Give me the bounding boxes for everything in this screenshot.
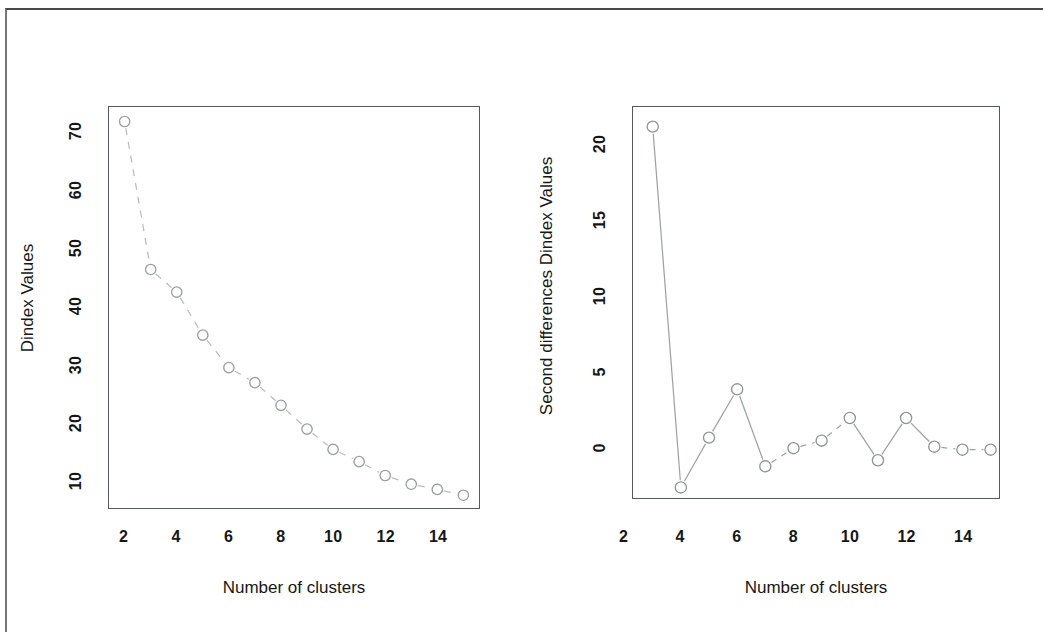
series-segment <box>827 422 844 436</box>
data-point-marker <box>224 362 234 372</box>
y-axis-title-dindex: Dindex Values <box>18 118 38 478</box>
y-tick-label: 10 <box>591 274 609 318</box>
data-point-marker <box>760 461 771 472</box>
figure-page: Dindex Values Number of clusters 1020304… <box>0 0 1045 632</box>
series-segment <box>941 447 955 448</box>
y-axis-title-second-differences: Second differences Dindex Values <box>537 106 557 466</box>
series-segment <box>126 128 150 263</box>
x-axis-title-second-differences: Number of clusters <box>632 578 1000 598</box>
y-tick-label: 40 <box>67 284 85 328</box>
panel-dindex: Dindex Values Number of clusters 1020304… <box>0 0 523 632</box>
series-segment <box>365 465 379 473</box>
x-tick-label: 6 <box>209 528 249 546</box>
data-point-marker <box>929 441 940 452</box>
x-tick-label: 4 <box>660 528 700 546</box>
data-point-marker <box>703 432 714 443</box>
series-segment <box>444 491 457 494</box>
data-point-marker <box>432 484 442 494</box>
x-tick-label: 8 <box>261 528 301 546</box>
data-point-marker <box>872 455 883 466</box>
y-tick-label: 60 <box>67 168 85 212</box>
series-segment <box>854 424 874 454</box>
series-segment <box>800 442 814 446</box>
series-segment <box>207 340 225 362</box>
x-tick-label: 8 <box>773 528 813 546</box>
series-segment <box>911 423 929 441</box>
data-point-marker <box>198 330 208 340</box>
x-tick-label: 14 <box>418 528 458 546</box>
series-segment <box>339 452 353 458</box>
x-tick-label: 2 <box>604 528 644 546</box>
y-tick-label: 10 <box>67 459 85 503</box>
x-tick-label: 12 <box>366 528 406 546</box>
y-tick-label: 30 <box>67 343 85 387</box>
y-tick-label: 20 <box>67 401 85 445</box>
data-point-marker <box>328 444 338 454</box>
series-segment <box>260 387 276 401</box>
series-segment <box>882 424 902 454</box>
series-segment <box>684 444 705 481</box>
x-tick-label: 2 <box>104 528 144 546</box>
series-segment <box>392 478 405 482</box>
data-point-marker <box>354 456 364 466</box>
data-point-marker <box>901 412 912 423</box>
y-tick-label: 5 <box>591 350 609 394</box>
data-point-marker <box>675 482 686 493</box>
data-point-marker <box>985 444 996 455</box>
data-point-marker <box>276 400 286 410</box>
data-point-marker <box>788 443 799 454</box>
x-axis-title-dindex: Number of clusters <box>108 578 480 598</box>
y-tick-label: 50 <box>67 226 85 270</box>
plot-area-second-differences <box>632 106 1000 499</box>
x-tick-label: 14 <box>943 528 983 546</box>
y-tick-label: 70 <box>67 109 85 153</box>
data-point-marker <box>380 470 390 480</box>
data-point-marker <box>844 412 855 423</box>
series-segment <box>771 452 787 462</box>
data-point-marker <box>406 479 416 489</box>
series-segment <box>235 371 249 379</box>
series-segment <box>713 395 734 431</box>
data-point-marker <box>458 490 468 500</box>
series-segment <box>180 298 199 329</box>
data-point-marker <box>172 287 182 297</box>
data-point-marker <box>957 444 968 455</box>
data-point-marker <box>816 435 827 446</box>
x-tick-label: 10 <box>830 528 870 546</box>
data-point-marker <box>250 377 260 387</box>
series-segment <box>156 274 172 288</box>
series-segment <box>418 486 431 489</box>
x-tick-label: 4 <box>156 528 196 546</box>
series-segment <box>740 396 763 460</box>
y-tick-label: 0 <box>591 426 609 470</box>
y-tick-label: 15 <box>591 198 609 242</box>
second-differences-series-svg <box>633 107 999 498</box>
x-tick-label: 6 <box>717 528 757 546</box>
series-segment <box>286 410 302 425</box>
x-tick-label: 10 <box>313 528 353 546</box>
series-segment <box>653 134 680 481</box>
plot-area-dindex <box>108 106 480 509</box>
data-point-marker <box>732 384 743 395</box>
x-tick-label: 12 <box>887 528 927 546</box>
data-point-marker <box>302 424 312 434</box>
series-segment <box>312 433 327 445</box>
data-point-marker <box>146 264 156 274</box>
dindex-series-svg <box>109 107 479 508</box>
data-point-marker <box>119 116 129 126</box>
data-point-marker <box>647 121 658 132</box>
y-tick-label: 20 <box>591 122 609 166</box>
panel-second-differences: Second differences Dindex Values Number … <box>523 0 1045 632</box>
